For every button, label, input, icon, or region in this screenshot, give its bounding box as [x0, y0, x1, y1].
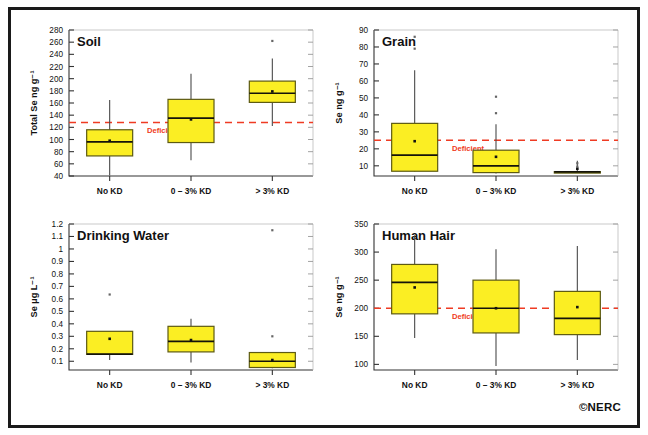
- x-category-label: No KD: [97, 380, 123, 390]
- outlier-point: [271, 335, 273, 337]
- y-tick-label: 280: [49, 26, 63, 35]
- box-iqr: [392, 264, 438, 313]
- y-tick-label: 30: [359, 128, 369, 137]
- y-tick-label: 1.2: [52, 220, 64, 229]
- y-tick-label: 0.1: [52, 357, 64, 366]
- y-tick-label: 80: [359, 43, 369, 52]
- y-tick-label: 40: [359, 111, 369, 120]
- box-plot-group: [87, 100, 133, 175]
- mean-marker: [413, 140, 416, 143]
- box-iqr: [554, 291, 600, 334]
- mean-marker: [271, 359, 274, 362]
- box-plot-group: [87, 293, 133, 360]
- outlier-point: [271, 229, 273, 231]
- y-tick-label: 100: [49, 136, 63, 145]
- box-plot-group: [249, 229, 295, 368]
- outlier-point: [271, 40, 273, 42]
- x-category-label: 0 – 3% KD: [171, 380, 212, 390]
- panel-title: Human Hair: [382, 228, 455, 243]
- panel-grain: 102030405060708090Se ng g⁻¹GrainDeficien…: [326, 16, 626, 208]
- y-tick-label: 60: [54, 160, 64, 169]
- y-tick-label: 0.9: [52, 257, 64, 266]
- mean-marker: [576, 306, 579, 309]
- y-tick-label: 60: [359, 77, 369, 86]
- y-tick-label: 0.5: [52, 307, 64, 316]
- box-iqr: [87, 331, 133, 354]
- y-tick-label: 220: [49, 63, 63, 72]
- y-tick-label: 200: [354, 304, 368, 313]
- x-category-label: > 3% KD: [560, 380, 594, 390]
- y-tick-label: 350: [354, 220, 368, 229]
- y-tick-label: 0.4: [52, 320, 64, 329]
- box-plot-group: [392, 36, 438, 172]
- panel-title: Grain: [382, 34, 416, 49]
- panel-title: Drinking Water: [77, 228, 169, 243]
- outlier-point: [414, 48, 416, 50]
- box-plot-group: [473, 96, 519, 174]
- x-category-label: 0 – 3% KD: [476, 186, 517, 196]
- y-axis-title: Total Se ng g⁻¹: [29, 70, 39, 135]
- y-tick-label: 90: [359, 26, 369, 35]
- outlier-point: [576, 162, 578, 164]
- panel-drinking-water: 0.10.20.30.40.50.60.70.80.911.11.2Se µg …: [21, 210, 321, 402]
- box-iqr: [168, 99, 214, 142]
- mean-marker: [413, 286, 416, 289]
- y-tick-label: 160: [49, 99, 63, 108]
- y-tick-label: 300: [354, 248, 368, 257]
- mean-marker: [190, 118, 193, 121]
- mean-marker: [190, 339, 193, 342]
- y-tick-label: 1: [58, 245, 63, 254]
- x-category-label: 0 – 3% KD: [476, 380, 517, 390]
- figure-frame: 406080100120140160180200220240260280Tota…: [8, 7, 640, 428]
- outlier-point: [576, 166, 578, 168]
- y-tick-label: 200: [49, 75, 63, 84]
- y-tick-label: 250: [354, 276, 368, 285]
- panel-human-hair: 100150200250300350Se ng g⁻¹Human HairDef…: [326, 210, 626, 402]
- mean-marker: [495, 156, 498, 159]
- box-plot-group: [168, 319, 214, 363]
- x-category-label: > 3% KD: [255, 380, 289, 390]
- y-axis-title: Se ng g⁻¹: [334, 276, 344, 317]
- y-tick-label: 20: [359, 145, 369, 154]
- y-tick-label: 50: [359, 94, 369, 103]
- y-tick-label: 150: [354, 332, 368, 341]
- y-tick-label: 0.7: [52, 282, 64, 291]
- y-tick-label: 0.6: [52, 295, 64, 304]
- box-iqr: [392, 123, 438, 171]
- box-iqr: [473, 150, 519, 172]
- x-category-label: 0 – 3% KD: [171, 186, 212, 196]
- outlier-point: [495, 112, 497, 114]
- mean-marker: [108, 338, 111, 341]
- x-category-label: No KD: [402, 380, 428, 390]
- box-iqr: [473, 280, 519, 333]
- y-tick-label: 140: [49, 111, 63, 120]
- box-plot-group: [554, 161, 600, 173]
- box-plot-group: [249, 40, 295, 126]
- x-category-label: No KD: [97, 186, 123, 196]
- y-tick-label: 100: [354, 360, 368, 369]
- y-tick-label: 0.8: [52, 270, 64, 279]
- y-tick-label: 1.1: [52, 232, 64, 241]
- outlier-point: [109, 293, 111, 295]
- y-tick-label: 10: [359, 162, 369, 171]
- y-tick-label: 80: [54, 148, 64, 157]
- box-plot-group: [554, 246, 600, 360]
- box-iqr: [87, 130, 133, 156]
- panel-title: Soil: [77, 34, 101, 49]
- outlier-point: [414, 36, 416, 38]
- box-plot-group: [392, 235, 438, 338]
- x-category-label: No KD: [402, 186, 428, 196]
- y-axis-title: Se µg L⁻¹: [29, 277, 39, 318]
- y-axis-title: Se ng g⁻¹: [334, 82, 344, 123]
- mean-marker: [495, 307, 498, 310]
- panel-soil: 406080100120140160180200220240260280Tota…: [21, 16, 321, 208]
- x-category-label: > 3% KD: [560, 186, 594, 196]
- y-tick-label: 70: [359, 60, 369, 69]
- figure-root: 406080100120140160180200220240260280Tota…: [0, 0, 648, 435]
- outlier-point: [495, 96, 497, 98]
- box-plot-group: [473, 249, 519, 366]
- y-tick-label: 260: [49, 38, 63, 47]
- y-tick-label: 0.3: [52, 332, 64, 341]
- y-tick-label: 120: [49, 123, 63, 132]
- y-tick-label: 40: [54, 172, 64, 181]
